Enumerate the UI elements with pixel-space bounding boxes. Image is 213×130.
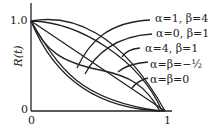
annotation-a0-b1: α=0, β=1 (156, 28, 209, 40)
y-tick-0: 0 (21, 104, 28, 116)
annotation-a4-b1: α=4, β=1 (145, 43, 198, 55)
y-axis-label: R(t) (13, 45, 25, 66)
x-tick-1: 1 (164, 115, 171, 127)
annotation-ab-0: α=β=0 (150, 74, 189, 86)
annotation-ab-neg-half: α=β=−½ (150, 59, 202, 71)
x-tick-0: 0 (28, 115, 35, 127)
y-tick-1: 1.0 (10, 15, 28, 27)
annotation-a1-b4: α=1, β=4 (155, 13, 208, 25)
reliability-chart: R(t) 1.0 0 0 1 α=1, β=4 α=0, β=1 α=4, β=… (0, 0, 213, 130)
